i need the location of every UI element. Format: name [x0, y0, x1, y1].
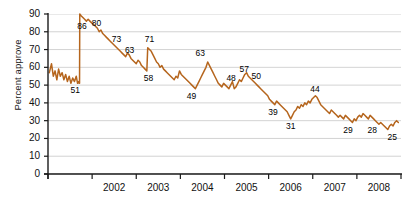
data-point-label: 28	[361, 126, 383, 135]
data-point-label: 25	[381, 133, 403, 142]
data-point-label: 39	[262, 108, 284, 117]
data-point-label: 44	[304, 85, 326, 94]
y-tick-label: 60	[14, 62, 40, 72]
chart-figure: Percent approve 0102030405060708090 2002…	[0, 0, 416, 205]
data-point-label: 48	[220, 74, 242, 83]
data-point-label: 71	[138, 35, 160, 44]
y-tick-label: 10	[14, 151, 40, 161]
y-tick-label: 40	[14, 98, 40, 108]
data-point-label: 29	[337, 126, 359, 135]
data-point-label: 63	[119, 46, 141, 55]
x-tick-label: 2004	[182, 183, 222, 193]
x-tick-label: 2007	[315, 183, 355, 193]
data-line-layer	[48, 14, 401, 174]
y-tick-label: 30	[14, 116, 40, 126]
x-tick-label: 2003	[138, 183, 178, 193]
data-point-label: 50	[245, 72, 267, 81]
x-tick-label: 2008	[359, 183, 399, 193]
data-point-label: 31	[280, 122, 302, 131]
y-tick-label: 80	[14, 27, 40, 37]
y-tick-label: 90	[14, 9, 40, 19]
data-point-label: 51	[64, 86, 86, 95]
y-tick-label: 50	[14, 80, 40, 90]
x-tick-label: 2006	[271, 183, 311, 193]
data-point-label: 63	[189, 49, 211, 58]
data-point-label: 73	[105, 35, 127, 44]
data-point-label: 58	[138, 74, 160, 83]
x-tick-label: 2002	[94, 183, 134, 193]
plot-area	[48, 14, 401, 174]
y-tick-label: 70	[14, 45, 40, 55]
x-tick-label: 2005	[227, 183, 267, 193]
y-tick-label: 20	[14, 133, 40, 143]
data-point-label: 49	[180, 92, 202, 101]
data-point-label: 80	[86, 19, 108, 28]
y-tick-label: 0	[14, 169, 40, 179]
